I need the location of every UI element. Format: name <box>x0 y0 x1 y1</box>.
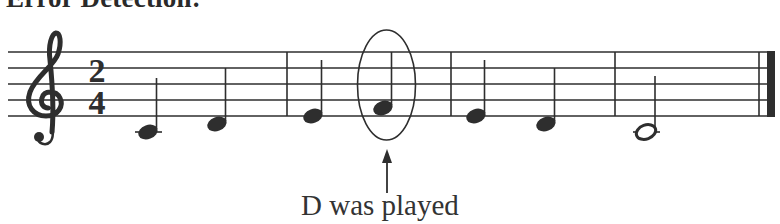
time-signature-denominator: 4 <box>89 84 106 121</box>
treble-clef-icon <box>29 33 62 144</box>
note-d4 <box>205 68 229 134</box>
error-highlight-ellipse <box>358 30 416 140</box>
note-c4 <box>135 78 162 142</box>
time-signature: 2 4 <box>89 52 106 121</box>
note-f4-circled <box>371 52 395 118</box>
note-e4 <box>464 60 488 126</box>
final-barline <box>767 51 775 117</box>
note-c4-half <box>633 76 660 142</box>
note-e4 <box>301 60 325 126</box>
note-d4 <box>534 68 558 134</box>
error-caption: D was played <box>301 189 459 222</box>
up-arrow-icon <box>382 149 392 193</box>
